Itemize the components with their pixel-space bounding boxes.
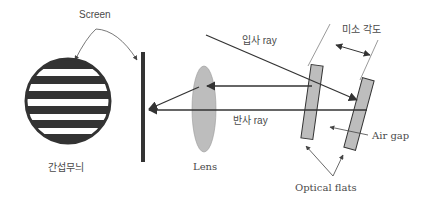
optical-flats-pointer-1 [306, 146, 333, 176]
small-angle-arrow [336, 45, 370, 55]
small-angle-label: 미소 각도 [342, 24, 381, 35]
optical-flats-pointer-2 [333, 155, 343, 176]
incident-ray-label: 입사 ray [242, 34, 277, 46]
screen-bar [141, 52, 145, 162]
lens [192, 66, 216, 152]
screen-pointer-arrow-to-screen [96, 29, 137, 60]
optical-flat-1 [301, 65, 323, 140]
angle-guide-line-2 [360, 40, 378, 80]
screen-pointer-arrow-to-fringe [75, 29, 96, 60]
air-gap-label: Air gap [371, 130, 409, 141]
screen-label: Screen [79, 9, 111, 20]
lens-label: Lens [193, 161, 217, 172]
fringe-label: 간섭무늬 [48, 162, 84, 173]
incident-ray [206, 35, 357, 100]
reflected-ray-label: 반사 ray [233, 115, 268, 126]
fringe-pattern [20, 59, 120, 164]
optical-flats-label: Optical flats [295, 182, 357, 193]
angle-guide-line-1 [308, 24, 330, 66]
interferometer-diagram: Screen 간섭무늬 Lens 미소 각도 입사 ray 반사 ray Ai [0, 0, 427, 208]
lens-to-screen-ray [149, 87, 199, 109]
optical-flat-2 [344, 78, 374, 151]
